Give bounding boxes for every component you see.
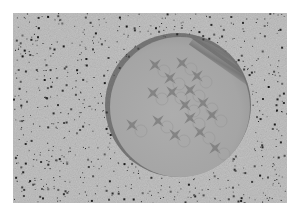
speckle xyxy=(202,35,204,37)
speckle xyxy=(39,90,40,91)
speckle xyxy=(264,80,265,81)
speckle xyxy=(15,73,16,74)
speckle xyxy=(208,38,210,40)
speckle xyxy=(277,81,278,82)
speckle xyxy=(131,163,133,165)
speckle xyxy=(33,166,34,167)
speckle xyxy=(273,183,274,184)
speckle xyxy=(254,38,255,39)
speckle xyxy=(226,188,227,189)
speckle xyxy=(241,197,243,199)
speckle xyxy=(278,15,279,16)
speckle xyxy=(277,33,278,34)
speckle xyxy=(185,201,187,203)
speckle xyxy=(238,201,240,203)
speckle xyxy=(20,121,21,122)
speckle xyxy=(65,196,66,197)
speckle xyxy=(92,87,93,88)
speckle xyxy=(82,79,84,81)
speckle xyxy=(85,192,86,193)
speckle xyxy=(29,150,30,151)
speckle xyxy=(276,174,277,175)
speckle xyxy=(62,90,64,92)
speckle xyxy=(182,25,183,26)
speckle xyxy=(21,129,22,130)
speckle xyxy=(221,36,223,38)
speckle xyxy=(34,154,35,155)
speckle xyxy=(23,195,25,197)
speckle xyxy=(47,126,49,128)
speckle xyxy=(20,81,22,83)
speckle xyxy=(272,128,274,130)
speckle xyxy=(35,180,36,181)
speckle xyxy=(256,116,258,118)
speckle xyxy=(67,76,68,77)
speckle xyxy=(64,68,66,70)
speckle xyxy=(282,101,283,102)
speckle xyxy=(53,112,55,114)
speckle xyxy=(282,177,283,178)
speckle xyxy=(253,91,254,92)
speckle xyxy=(275,75,276,76)
speckle xyxy=(17,155,18,156)
speckle xyxy=(50,69,52,71)
speckle xyxy=(20,53,21,54)
speckle xyxy=(92,131,93,132)
speckle xyxy=(47,143,48,144)
speckle xyxy=(102,103,103,104)
speckle xyxy=(181,23,182,24)
speckle xyxy=(278,130,279,131)
speckle xyxy=(33,124,34,125)
speckle xyxy=(104,117,105,118)
speckle xyxy=(253,105,254,106)
speckle xyxy=(20,105,22,107)
speckle xyxy=(48,150,49,151)
speckle xyxy=(92,175,94,177)
speckle xyxy=(65,190,67,192)
speckle xyxy=(264,19,265,20)
speckle xyxy=(84,29,85,30)
speckle xyxy=(83,32,84,33)
speckle xyxy=(139,14,140,15)
speckle xyxy=(36,69,38,71)
speckle xyxy=(241,47,242,48)
speckle xyxy=(243,173,244,174)
speckle xyxy=(281,111,282,112)
speckle xyxy=(84,122,85,123)
speckle xyxy=(47,87,49,89)
speckle xyxy=(278,183,279,184)
speckle xyxy=(268,57,269,58)
speckle xyxy=(195,188,196,189)
speckle xyxy=(23,116,24,117)
speckle xyxy=(79,99,80,100)
speckle xyxy=(259,175,261,177)
speckle xyxy=(57,128,58,129)
speckle xyxy=(45,168,46,169)
speckle xyxy=(53,53,54,54)
speckle xyxy=(274,180,275,181)
speckle xyxy=(84,34,85,35)
speckle xyxy=(45,59,46,60)
speckle xyxy=(36,160,37,161)
speckle xyxy=(81,52,82,53)
speckle xyxy=(281,135,282,136)
speckle xyxy=(206,16,207,17)
speckle xyxy=(262,202,263,203)
speckle xyxy=(108,57,110,59)
speckle xyxy=(141,201,142,202)
speckle xyxy=(273,163,274,164)
speckle xyxy=(57,42,58,43)
speckle xyxy=(276,146,277,147)
speckle xyxy=(223,29,225,31)
speckle xyxy=(174,199,175,200)
speckle xyxy=(283,102,285,104)
speckle xyxy=(112,195,113,196)
speckle xyxy=(101,166,102,167)
speckle xyxy=(68,151,69,152)
speckle xyxy=(66,67,67,68)
speckle xyxy=(38,201,39,202)
speckle xyxy=(97,186,98,187)
speckle xyxy=(278,72,279,73)
speckle xyxy=(88,147,89,148)
speckle xyxy=(257,101,258,102)
